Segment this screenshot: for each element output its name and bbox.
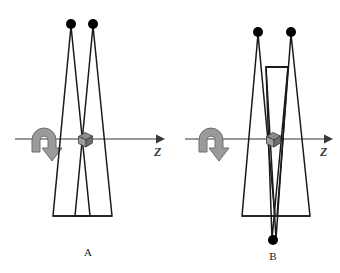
vertex-dot [88,19,98,29]
vertex-dot [286,27,296,37]
z-axis-label-b: Z [319,145,328,159]
z-axis-label-a: Z [153,145,162,159]
z-axis-arrowhead-b [324,135,333,144]
panel-caption-a: A [84,246,92,258]
panel-caption-b: B [269,250,276,262]
vertex-dot [253,27,263,37]
panel-b: Z [185,27,333,262]
center-cube-a [79,133,93,148]
vertex-dot [66,19,76,29]
diagram-canvas: Z A [0,0,340,273]
rotation-arrow-b [199,128,229,161]
panel-a: Z A [15,19,165,258]
vertex-dot-bottom [268,235,278,245]
rotation-arrow-a [32,128,62,161]
z-axis-arrowhead-a [156,135,165,144]
figure-root: Z A [0,0,340,273]
